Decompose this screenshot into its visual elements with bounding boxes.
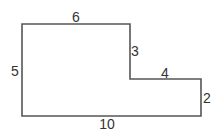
step-horizontal-edge-label: 4	[161, 66, 169, 80]
left-edge-label: 5	[11, 64, 19, 78]
l-shape-polygon	[22, 24, 201, 116]
top-edge-label: 6	[72, 10, 80, 24]
diagram-canvas: 6 3 4 2 10 5	[0, 0, 220, 135]
inner-vertical-edge-label: 3	[131, 44, 139, 58]
bottom-edge-label: 10	[99, 117, 115, 131]
l-shape-figure	[0, 0, 220, 135]
right-edge-label: 2	[203, 91, 211, 105]
